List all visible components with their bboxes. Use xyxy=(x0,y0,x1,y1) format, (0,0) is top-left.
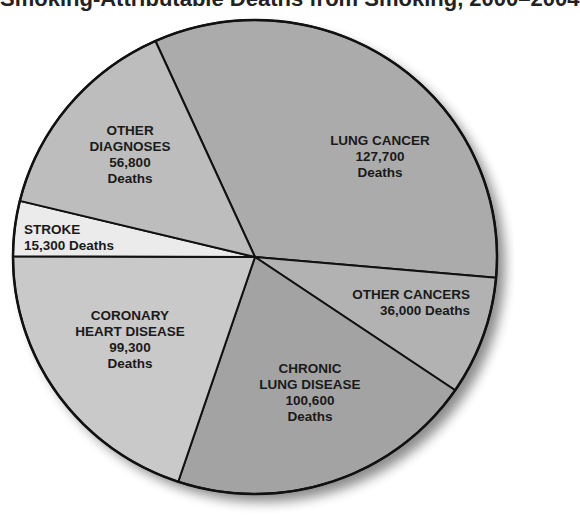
label-other-diagnoses: OTHER DIAGNOSES 56,800 Deaths xyxy=(70,123,190,187)
label-other-cancers: OTHER CANCERS 36,000 Deaths xyxy=(320,287,470,319)
label-lung-cancer: LUNG CANCER 127,700 Deaths xyxy=(300,133,460,181)
label-coronary-heart-disease: CORONARY HEART DISEASE 99,300 Deaths xyxy=(60,308,200,372)
label-stroke: STROKE 15,300 Deaths xyxy=(24,222,144,254)
label-chronic-lung-disease: CHRONIC LUNG DISEASE 100,600 Deaths xyxy=(240,361,380,425)
